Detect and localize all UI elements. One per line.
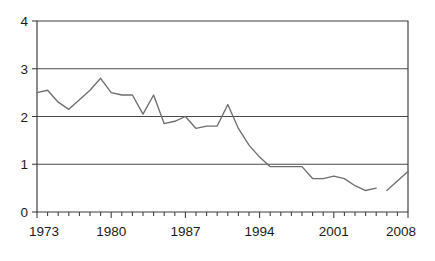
x-axis-label-2008: 2008 bbox=[386, 224, 416, 239]
y-axis-ticks bbox=[32, 21, 37, 212]
x-axis-tick-labels: 197319801987199420012008 bbox=[29, 224, 416, 239]
chart-canvas: 01234 197319801987199420012008 bbox=[0, 0, 435, 261]
y-axis-label-4: 4 bbox=[20, 14, 28, 29]
x-axis-label-1994: 1994 bbox=[245, 224, 276, 239]
x-axis-ticks bbox=[37, 212, 408, 218]
y-axis-label-2: 2 bbox=[20, 110, 28, 125]
x-axis-label-2001: 2001 bbox=[319, 224, 349, 239]
x-axis-label-1980: 1980 bbox=[96, 224, 126, 239]
y-axis-label-3: 3 bbox=[20, 62, 28, 77]
x-axis-label-1987: 1987 bbox=[170, 224, 200, 239]
y-axis-tick-labels: 01234 bbox=[20, 14, 28, 220]
x-axis-label-1973: 1973 bbox=[29, 224, 59, 239]
y-axis-label-0: 0 bbox=[20, 205, 28, 220]
line-chart: 01234 197319801987199420012008 bbox=[0, 0, 435, 261]
y-axis-label-1: 1 bbox=[20, 157, 28, 172]
